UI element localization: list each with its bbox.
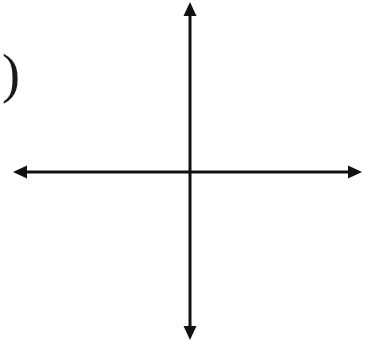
coordinate-plane-figure [0,0,372,346]
coordinate-plane-page: ) [0,0,372,346]
problem-number-paren: ) [0,46,22,102]
